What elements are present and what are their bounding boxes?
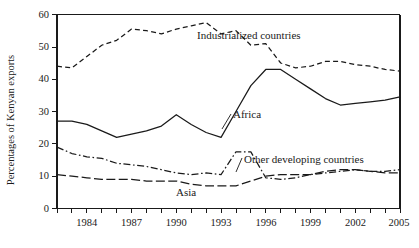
x-tick-label-1996: 1996 (255, 217, 276, 228)
y-tick-label-30: 30 (39, 106, 50, 117)
annotation-asia: Asia (176, 186, 196, 198)
line-chart-figure: Percentages of Kenyan exports 60 50 40 3… (0, 0, 419, 248)
x-tick-marks (57, 209, 400, 214)
annotation-leader-other-developing (236, 158, 242, 172)
x-tick-label-1999: 1999 (300, 217, 321, 228)
annotation-africa: Africa (233, 108, 261, 120)
x-tick-label-1987: 1987 (121, 217, 142, 228)
y-tick-marks (52, 15, 57, 209)
y-tick-label-10: 10 (39, 170, 50, 181)
x-tick-label-1993: 1993 (211, 217, 232, 228)
x-tick-label-1984: 1984 (76, 217, 98, 228)
series-line-asia (57, 170, 400, 186)
y-axis-title: Percentages of Kenyan exports (5, 55, 16, 185)
annotation-industrialized-countries: Industrialized countries (197, 29, 301, 41)
y-tick-label-50: 50 (39, 41, 50, 52)
series-line-africa (57, 69, 400, 137)
y-tick-label-60: 60 (39, 9, 50, 20)
x-tick-label-2002: 2002 (345, 217, 366, 228)
annotation-other-developing-countries: Other developing countries (244, 153, 364, 165)
chart-canvas: Percentages of Kenyan exports 60 50 40 3… (0, 0, 419, 248)
y-tick-label-40: 40 (39, 73, 50, 84)
y-tick-label-20: 20 (39, 138, 50, 149)
x-tick-label-1990: 1990 (166, 217, 187, 228)
y-tick-label-0: 0 (44, 203, 49, 214)
x-tick-label-2005: 2005 (389, 217, 410, 228)
